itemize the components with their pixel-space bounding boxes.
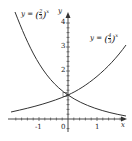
y-tick-label-4: 4	[61, 19, 65, 26]
curve-label-four-thirds: y = (43)x	[90, 33, 118, 44]
curve-four-thirds-power-x	[11, 45, 126, 112]
y-axis	[66, 12, 71, 132]
curve-two-thirds-power-x	[15, 12, 126, 116]
x-axis	[8, 117, 127, 122]
y-axis-label: y	[58, 8, 62, 15]
x-tick-label-0: 0	[61, 124, 65, 131]
x-axis-label: x	[121, 122, 125, 129]
graph-canvas	[0, 0, 132, 141]
y-tick-label-2: 2	[61, 67, 65, 74]
exponent: x	[46, 8, 49, 14]
curve-label-prefix: y =	[90, 34, 104, 42]
x-tick-label-neg1: -1	[35, 124, 42, 131]
x-tick-label-1: 1	[95, 124, 99, 131]
curve-label-prefix: y =	[21, 10, 35, 18]
y-tick-label-3: 3	[61, 43, 65, 50]
curve-label-two-thirds: y = (23)x	[21, 9, 49, 20]
y-axis-arrow-icon	[66, 12, 71, 18]
exponent: x	[115, 32, 118, 38]
